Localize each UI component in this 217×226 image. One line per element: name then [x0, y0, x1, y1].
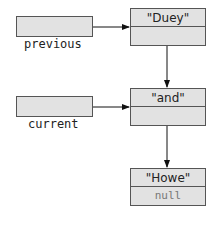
node-next — [131, 107, 205, 125]
linked-list-diagram: previous current "Duey" "and" "Howe" nul… — [0, 0, 217, 226]
current-label: current — [28, 117, 79, 131]
previous-pointer-box — [16, 16, 93, 37]
node-next — [131, 27, 205, 45]
node-duey: "Duey" — [130, 8, 206, 46]
node-and: "and" — [130, 88, 206, 126]
node-value: "and" — [131, 89, 205, 107]
node-howe: "Howe" null — [130, 168, 206, 206]
node-value: "Duey" — [131, 9, 205, 27]
previous-label: previous — [24, 37, 82, 51]
current-pointer-box — [16, 96, 93, 117]
node-value: "Howe" — [131, 169, 205, 187]
node-next-null: null — [131, 187, 205, 205]
